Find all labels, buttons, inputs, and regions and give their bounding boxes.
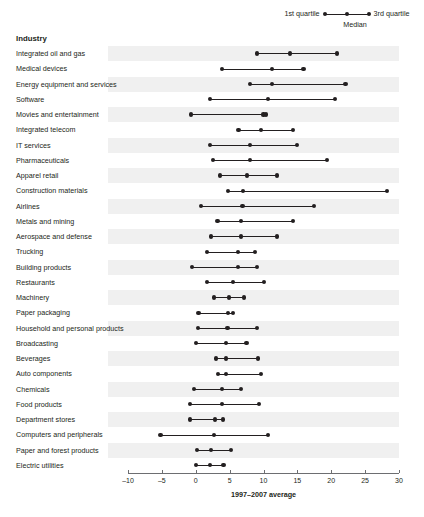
point-median: [212, 433, 216, 437]
x-axis-tick-label: 25: [361, 476, 369, 485]
point-third-quartile: [257, 402, 261, 406]
point-third-quartile: [229, 448, 233, 452]
quartile-range-line: [192, 267, 257, 268]
point-first-quartile: [208, 97, 212, 101]
point-median: [288, 51, 292, 55]
row-plot: [0, 122, 424, 137]
legend-dot-median: [345, 12, 349, 16]
legend-dot-third-quartile: [367, 12, 371, 16]
chart-container: 1st quartile 3rd quartile Median Industr…: [0, 0, 424, 517]
point-median: [248, 158, 252, 162]
row-plot: [0, 199, 424, 214]
point-third-quartile: [291, 219, 295, 223]
chart-row: Beverages: [0, 351, 424, 366]
point-median: [231, 280, 235, 284]
x-axis-tick-label: 5: [228, 476, 232, 485]
chart-row: Broadcasting: [0, 336, 424, 351]
x-axis-tick-label: –5: [158, 476, 166, 485]
row-plot: [0, 275, 424, 290]
row-plot: [0, 214, 424, 229]
point-third-quartile: [275, 234, 279, 238]
row-plot: [0, 107, 424, 122]
chart-row: Construction materials: [0, 183, 424, 198]
chart-row: Food products: [0, 397, 424, 412]
quartile-range-line: [216, 358, 258, 359]
point-median: [248, 143, 252, 147]
point-third-quartile: [256, 356, 260, 360]
point-third-quartile: [312, 204, 316, 208]
point-first-quartile: [255, 51, 259, 55]
point-third-quartile: [266, 433, 270, 437]
quartile-range-line: [222, 69, 303, 70]
column-header-industry: Industry: [16, 34, 47, 44]
quartile-range-line: [196, 343, 247, 344]
chart-row: Trucking: [0, 244, 424, 259]
point-median: [240, 204, 244, 208]
point-median: [213, 417, 217, 421]
point-first-quartile: [248, 82, 252, 86]
x-axis-tick: [264, 470, 265, 473]
point-median: [209, 448, 213, 452]
quartile-range-line: [191, 114, 266, 115]
point-first-quartile: [218, 173, 222, 177]
quartile-range-line: [197, 450, 231, 451]
point-median: [220, 402, 224, 406]
point-third-quartile: [291, 128, 295, 132]
point-first-quartile: [192, 387, 196, 391]
point-first-quartile: [215, 219, 219, 223]
x-axis-tick-label: 20: [327, 476, 335, 485]
x-axis-tick-label: –10: [122, 476, 134, 485]
row-plot: [0, 321, 424, 336]
row-plot: [0, 244, 424, 259]
point-first-quartile: [188, 402, 192, 406]
point-third-quartile: [335, 51, 339, 55]
row-plot: [0, 290, 424, 305]
x-axis-tick: [297, 470, 298, 473]
x-axis-tick-label: 15: [293, 476, 301, 485]
point-third-quartile: [221, 463, 225, 467]
row-plot: [0, 138, 424, 153]
quartile-range-line: [257, 53, 338, 54]
quartile-range-line: [190, 404, 258, 405]
row-plot: [0, 412, 424, 427]
chart-row: Medical devices: [0, 61, 424, 76]
x-axis-tick: [399, 470, 400, 473]
point-first-quartile: [195, 448, 199, 452]
point-first-quartile: [205, 280, 209, 284]
row-plot: [0, 77, 424, 92]
point-median: [220, 387, 224, 391]
row-plot: [0, 153, 424, 168]
chart-row: Household and personal products: [0, 321, 424, 336]
quartile-range-line: [190, 419, 223, 420]
point-median: [259, 128, 263, 132]
point-median: [266, 97, 270, 101]
point-third-quartile: [255, 326, 259, 330]
quartile-range-line: [207, 252, 254, 253]
quartile-range-line: [210, 145, 297, 146]
chart-row: Restaurants: [0, 275, 424, 290]
chart-row: Aerospace and defense: [0, 229, 424, 244]
point-first-quartile: [205, 250, 209, 254]
point-first-quartile: [188, 417, 192, 421]
quartile-range-line: [250, 84, 346, 85]
quartile-range-line: [217, 221, 293, 222]
row-plot: [0, 427, 424, 442]
point-first-quartile: [236, 128, 240, 132]
point-median: [224, 341, 228, 345]
quartile-range-line: [228, 191, 387, 192]
chart-row: Integrated oil and gas: [0, 46, 424, 61]
x-axis-tick: [128, 470, 129, 473]
chart-row: Integrated telecom: [0, 122, 424, 137]
point-median: [270, 67, 274, 71]
quartile-range-line: [210, 99, 335, 100]
chart-row: Movies and entertainment: [0, 107, 424, 122]
point-third-quartile: [239, 387, 243, 391]
point-first-quartile: [208, 143, 212, 147]
chart-row: Apparel retail: [0, 168, 424, 183]
row-plot: [0, 443, 424, 458]
legend-row: 1st quartile 3rd quartile: [272, 8, 422, 20]
row-plot: [0, 366, 424, 381]
point-third-quartile: [244, 341, 248, 345]
quartile-range-line: [194, 389, 241, 390]
point-median: [239, 234, 243, 238]
